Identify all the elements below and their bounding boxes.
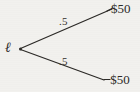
upper-branch-probability-label: .5 xyxy=(59,16,68,27)
root-node-dot xyxy=(19,48,22,51)
root-node-label: ℓ xyxy=(5,41,11,55)
lower-branch-probability-label: .5 xyxy=(59,56,68,67)
upper-branch-payoff-label: $50 xyxy=(111,2,131,15)
lower-branch-payoff-label: −$50 xyxy=(103,73,130,86)
decision-tree-diagram: ℓ .5 .5 $50 −$50 xyxy=(0,0,140,92)
